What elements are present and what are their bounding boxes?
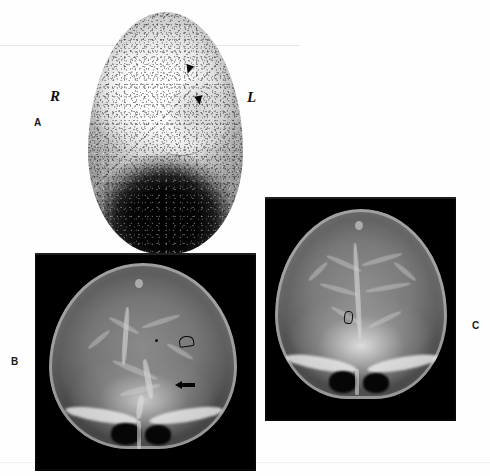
panel-c-skull-base-sinus xyxy=(329,371,357,393)
panel-b-calvarial-rim xyxy=(49,263,237,449)
panel-c-calvarial-rim xyxy=(275,209,447,399)
scan-brain-silhouette xyxy=(88,12,243,254)
panel-b-midline-structure xyxy=(137,421,141,449)
panel-c-angiogram xyxy=(265,197,456,421)
panel-label-b: B xyxy=(11,356,18,367)
panel-label-c: C xyxy=(472,320,479,331)
panel-b-film-notch xyxy=(35,253,256,255)
panel-c-midline-structure xyxy=(355,369,359,395)
figure-root: R L A B xyxy=(0,0,490,476)
panel-label-a: A xyxy=(34,117,41,128)
panel-b-skull-base-sinus xyxy=(145,425,171,445)
panel-c-skull xyxy=(275,209,447,399)
panel-b-angiogram xyxy=(35,253,256,471)
panel-a-arrowhead-lower-icon xyxy=(194,95,203,105)
orientation-marker-right: R xyxy=(50,88,60,105)
panel-c-skull-base-sinus xyxy=(363,373,389,393)
panel-b-dot-marker xyxy=(155,339,158,342)
panel-a-radionuclide-scan xyxy=(88,12,243,254)
scan-noise-light-speckle xyxy=(88,12,243,254)
panel-b-vessel xyxy=(135,279,143,288)
panel-c-vessel xyxy=(355,221,363,230)
panel-b-solid-arrow-icon xyxy=(181,383,195,387)
panel-c-film-notch xyxy=(265,197,456,199)
panel-b-skull xyxy=(49,263,237,449)
panel-b-open-arrow-icon xyxy=(178,335,194,348)
orientation-marker-left: L xyxy=(247,89,256,106)
